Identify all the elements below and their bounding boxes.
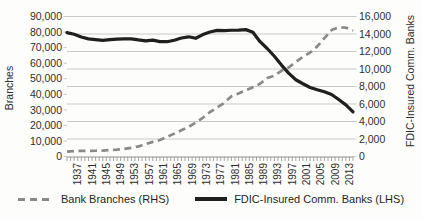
legend-item-bank-branches: Bank Branches (RHS) bbox=[18, 193, 169, 205]
y-axis-tick-label-right: 6,000 bbox=[359, 98, 385, 110]
y-axis-tick-label-left: 60,000 bbox=[30, 57, 62, 69]
y-axis-tick-label-right: 16,000 bbox=[359, 10, 391, 22]
y-axis-tick-label-left: 40,000 bbox=[30, 88, 62, 100]
y-axis-tick-label-left: 10,000 bbox=[30, 135, 62, 147]
x-axis-tick-label: 1949 bbox=[115, 163, 126, 186]
x-axis-tick-label: 1937 bbox=[72, 163, 83, 186]
x-axis-tick-label: 1965 bbox=[172, 163, 183, 186]
y-axis-tick-label-left: 80,000 bbox=[30, 26, 62, 38]
x-axis-tick-label: 2013 bbox=[344, 163, 355, 186]
y-axis-tick-label-right: 10,000 bbox=[359, 63, 391, 75]
legend-label-fdic-banks: FDIC-Insured Comm. Banks (LHS) bbox=[234, 193, 404, 205]
x-axis-tick-label: 2009 bbox=[330, 163, 341, 186]
x-axis-tick-label: 1985 bbox=[244, 163, 255, 186]
x-axis-tick-label: 2005 bbox=[315, 163, 326, 186]
legend-label-bank-branches: Bank Branches (RHS) bbox=[61, 193, 169, 205]
series-line-bank-branches bbox=[67, 27, 353, 151]
y-axis-tick-label-left: 90,000 bbox=[30, 10, 62, 22]
y-axis-tick-label-left: 30,000 bbox=[30, 104, 62, 116]
x-axis-tick-label: 1961 bbox=[158, 163, 169, 186]
x-axis-tick-label: 1957 bbox=[144, 163, 155, 186]
left-axis-title: Branches bbox=[3, 66, 15, 110]
legend: Bank Branches (RHS) FDIC-Insured Comm. B… bbox=[0, 193, 422, 205]
y-axis-tick-label-left: 70,000 bbox=[30, 41, 62, 53]
x-axis-tick-label: 1997 bbox=[287, 163, 298, 186]
y-axis-tick-label-left: 20,000 bbox=[30, 119, 62, 131]
chart-canvas: 90,00080,00070,00060,00050,00040,00030,0… bbox=[0, 0, 422, 219]
right-axis-title: FDIC-Insured Comm. Banks bbox=[404, 15, 416, 147]
dashed-line-swatch bbox=[18, 198, 54, 201]
x-axis-tick-label: 1969 bbox=[187, 163, 198, 186]
x-axis-tick-label: 1993 bbox=[272, 163, 283, 186]
x-axis-tick-label: 1945 bbox=[101, 163, 112, 186]
chart-figure: 90,00080,00070,00060,00050,00040,00030,0… bbox=[0, 0, 422, 219]
x-axis-tick-label: 1953 bbox=[129, 163, 140, 186]
x-axis-tick-label: 1977 bbox=[215, 163, 226, 186]
x-axis-tick-label: 1973 bbox=[201, 163, 212, 186]
y-axis-tick-label-right: 2,000 bbox=[359, 133, 385, 145]
legend-item-fdic-banks: FDIC-Insured Comm. Banks (LHS) bbox=[195, 193, 404, 205]
series-line-fdic-banks bbox=[67, 30, 353, 112]
x-axis-tick-label: 1941 bbox=[87, 163, 98, 186]
y-axis-tick-label-right: 12,000 bbox=[359, 45, 391, 57]
y-axis-tick-label-right: 8,000 bbox=[359, 80, 385, 92]
y-axis-tick-label-right: 0 bbox=[359, 150, 365, 162]
y-axis-tick-label-left: 50,000 bbox=[30, 72, 62, 84]
x-axis-tick-label: 1981 bbox=[230, 163, 241, 186]
y-axis-tick-label-left: 0 bbox=[56, 150, 62, 162]
y-axis-tick-label-right: 14,000 bbox=[359, 28, 391, 40]
x-axis-tick-label: 2001 bbox=[301, 163, 312, 186]
x-axis-tick-label: 1989 bbox=[258, 163, 269, 186]
solid-line-swatch bbox=[195, 197, 227, 201]
y-axis-tick-label-right: 4,000 bbox=[359, 115, 385, 127]
